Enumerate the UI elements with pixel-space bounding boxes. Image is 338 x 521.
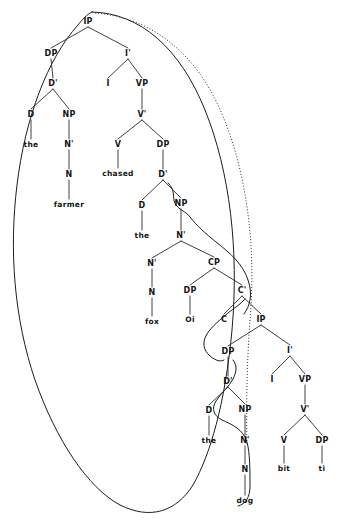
node-Nbar2: N' <box>176 231 186 240</box>
terminal-dog: dog <box>237 496 254 505</box>
tree-branch <box>142 120 163 139</box>
node-I2: I <box>270 375 273 384</box>
node-Nbar1: N' <box>64 140 74 149</box>
tree-branch <box>51 27 88 48</box>
node-NP2: NP <box>175 199 188 208</box>
syntax-tree-figure: IPDPI'D'IVPDNPV'theN'VDPNchasedD'farmerD… <box>0 0 338 521</box>
tree-branch <box>128 59 142 78</box>
node-D2: D <box>139 201 146 210</box>
terminal-the3: the <box>202 436 217 445</box>
node-V1: V <box>115 140 122 149</box>
tree-branch <box>290 356 305 374</box>
node-VP1: VP <box>136 79 148 88</box>
node-N2: N <box>149 288 156 297</box>
node-Dbar2: D' <box>158 170 168 179</box>
node-Nbar3: N' <box>147 259 157 268</box>
tree-branch <box>228 387 245 404</box>
node-IP1: IP <box>83 17 92 26</box>
node-Dbar1: D' <box>48 79 58 88</box>
tree-branch <box>152 241 181 258</box>
terminal-the1: the <box>24 140 39 149</box>
tree-branch <box>142 180 163 200</box>
node-Vbar2: V' <box>300 405 309 414</box>
terminal-fox: fox <box>145 317 159 326</box>
tree-branch <box>53 89 69 109</box>
tree-branch <box>31 89 53 109</box>
node-Ibar1: I' <box>125 49 131 58</box>
tree-branch <box>272 356 290 374</box>
node-N3: N <box>242 465 249 474</box>
node-Cbar1: C' <box>238 286 247 295</box>
node-I1: I <box>106 79 109 88</box>
terminal-bit: bit <box>278 464 291 473</box>
node-IP2: IP <box>256 315 265 324</box>
tree-branch <box>181 241 214 257</box>
node-DP2: DP <box>157 140 170 149</box>
node-D3: D <box>206 406 213 415</box>
terminal-chased: chased <box>102 169 134 178</box>
tree-branch <box>228 325 261 346</box>
terminal-farmer: farmer <box>54 200 84 209</box>
node-VP2: VP <box>299 375 311 384</box>
node-DP4: DP <box>222 347 235 356</box>
tree-branch <box>108 59 128 78</box>
node-CP1: CP <box>208 258 220 267</box>
node-DP3: DP <box>184 286 197 295</box>
node-DP1: DP <box>45 49 58 58</box>
tree-branch <box>261 325 290 345</box>
tree-branch <box>305 415 322 435</box>
tree-branch <box>214 268 242 285</box>
node-Nbar4: N' <box>240 436 250 445</box>
node-V2: V <box>281 436 288 445</box>
tree-branches-layer <box>31 27 322 495</box>
tree-branch <box>88 27 128 48</box>
node-D1: D <box>28 110 35 119</box>
tree-branch <box>209 387 228 405</box>
tree-branch <box>242 296 261 314</box>
tree-branch <box>163 180 181 198</box>
node-C1: C <box>221 315 227 324</box>
terminal-the2: the <box>135 231 150 240</box>
node-NP1: NP <box>63 110 76 119</box>
terminal-ti: ti <box>319 464 326 473</box>
tree-branch <box>118 120 142 139</box>
tree-branch <box>190 268 214 285</box>
node-Ibar2: I' <box>287 346 293 355</box>
terminal-Oi: Oi <box>185 315 195 324</box>
node-N1: N <box>66 170 73 179</box>
tree-branch <box>284 415 305 435</box>
tree-labels-layer: IPDPI'D'IVPDNPV'theN'VDPNchasedD'farmerD… <box>24 17 329 505</box>
node-Vbar1: V' <box>137 110 146 119</box>
tree-canvas: IPDPI'D'IVPDNPV'theN'VDPNchasedD'farmerD… <box>0 0 338 521</box>
node-Dbar3: D' <box>223 377 233 386</box>
node-DP5: DP <box>316 436 329 445</box>
node-NP3: NP <box>239 405 252 414</box>
